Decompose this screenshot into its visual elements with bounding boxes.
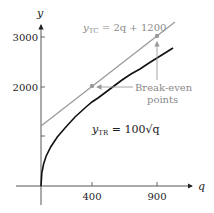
tc-equation-label: yTC = 2q + 1200	[82, 22, 166, 35]
tr-equation-label: yTR = 100√q	[91, 123, 159, 137]
tr-curve	[41, 48, 173, 186]
x-axis-label: q	[198, 180, 205, 193]
chart: y q 3000 2000 400 900 yTC = 2q + 1200 Br…	[0, 0, 214, 213]
x-tick-label-400: 400	[82, 191, 101, 202]
x-tick-label-900: 900	[147, 191, 166, 202]
y-tick-label-3000: 3000	[13, 32, 38, 43]
break-even-label-line2: points	[147, 94, 178, 105]
y-tick-label-2000: 2000	[13, 82, 38, 93]
break-even-point-900	[155, 34, 159, 38]
break-even-point-400	[90, 84, 94, 88]
break-even-label-line1: Break-even	[135, 82, 193, 93]
y-axis-label: y	[36, 7, 44, 20]
tc-line	[41, 22, 175, 126]
